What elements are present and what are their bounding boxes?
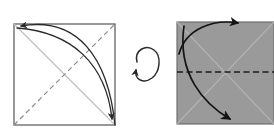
panel-right [177,22,274,124]
diagram-canvas [0,0,274,140]
panel-left [14,24,115,125]
origami-diagram [0,0,274,140]
